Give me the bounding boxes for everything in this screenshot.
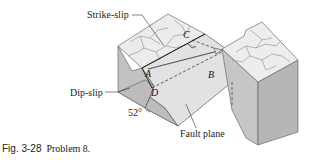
- caption-figure-number: Fig. 3-28: [2, 143, 41, 154]
- label-strike-slip: Strike-slip: [87, 10, 129, 20]
- label-angle: 52°: [128, 108, 142, 118]
- point-b: B: [208, 70, 214, 80]
- point-d: D: [151, 88, 158, 98]
- label-dip-slip: Dip-slip: [70, 88, 103, 98]
- figure-caption: Fig. 3-28Problem 8.: [2, 144, 90, 154]
- point-c: C: [183, 30, 190, 40]
- fault-blocks-illustration: [0, 0, 316, 163]
- caption-text: Problem 8.: [46, 143, 90, 154]
- point-a: A: [145, 69, 151, 79]
- label-fault-plane: Fault plane: [180, 129, 225, 139]
- fault-diagram: Strike-slip Dip-slip 52° Fault plane C A…: [0, 0, 316, 163]
